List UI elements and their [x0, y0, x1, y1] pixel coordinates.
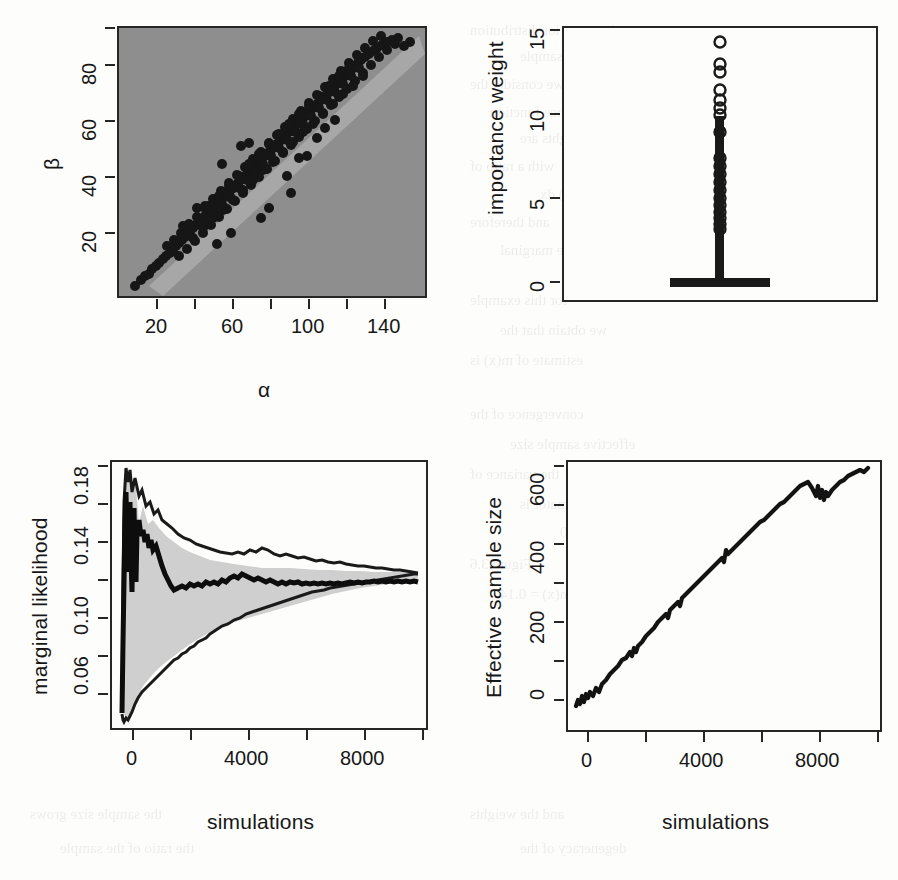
ytick-label: 0.10	[70, 596, 93, 635]
plot-area-effective-sample-size	[566, 460, 882, 732]
four-panel-figure: β 20 40 60 80	[0, 0, 898, 880]
axis-tick	[554, 699, 564, 701]
axis-tick	[156, 299, 158, 309]
axis-title-importance-weight: importance weight	[484, 41, 508, 215]
axis-tick	[819, 732, 821, 742]
axis-tick	[554, 504, 564, 506]
axis-tick	[105, 64, 115, 66]
axis-tick	[703, 732, 705, 742]
xtick-label: 140	[367, 315, 400, 338]
axis-tick	[270, 299, 272, 309]
panel-marginal-likelihood: marginal likelihood 0.06 0.10 0.14 0.18	[0, 440, 450, 880]
ytick-label: 40	[78, 175, 101, 197]
axis-tick	[645, 732, 647, 742]
axis-tick	[98, 693, 108, 695]
xtick-label: 8000	[795, 749, 840, 772]
axis-tick	[554, 543, 564, 545]
axis-tick	[105, 120, 115, 122]
confidence-band-fill	[122, 468, 418, 722]
axis-tick	[761, 732, 763, 742]
axis-tick	[550, 197, 560, 199]
axis-tick	[554, 621, 564, 623]
axis-tick	[98, 465, 108, 467]
ytick-label: 0	[526, 689, 549, 700]
axis-tick	[550, 113, 560, 115]
ytick-label: 0.06	[70, 656, 93, 695]
axis-tick	[98, 655, 108, 657]
ytick-label: 5	[526, 199, 549, 210]
axis-tick	[98, 579, 108, 581]
axis-tick	[105, 232, 115, 234]
xtick-label: 4000	[679, 749, 724, 772]
xtick-label: 0	[126, 747, 137, 770]
axis-tick	[554, 660, 564, 662]
scatter-points	[119, 28, 425, 296]
panel-alpha-beta-scatter: β 20 40 60 80	[0, 0, 450, 440]
axis-title-effective-sample-size: Effective sample size	[482, 497, 506, 698]
axis-tick	[422, 730, 424, 740]
axis-tick	[190, 730, 192, 740]
marginal-likelihood-band	[112, 462, 426, 728]
axis-tick	[554, 582, 564, 584]
ytick-label: 60	[78, 119, 101, 141]
axis-title-simulations-left: simulations	[207, 810, 314, 834]
ytick-label: 200	[526, 611, 549, 644]
axis-tick	[194, 299, 196, 309]
ytick-label: 10	[526, 110, 549, 132]
axis-tick	[306, 730, 308, 740]
ytick-label: 600	[526, 473, 549, 506]
axis-tick	[105, 27, 115, 29]
axis-tick	[554, 465, 564, 467]
axis-tick	[98, 503, 108, 505]
panel-effective-sample-size: Effective sample size 0 200 400 600 0 40…	[450, 440, 898, 880]
xtick-label: 4000	[224, 747, 269, 770]
ytick-label: 400	[526, 541, 549, 574]
axis-title-marginal-likelihood: marginal likelihood	[28, 517, 52, 695]
xtick-label: 8000	[340, 747, 385, 770]
axis-tick	[132, 730, 134, 740]
xtick-label: 20	[145, 315, 167, 338]
axis-tick	[384, 299, 386, 309]
axis-tick	[550, 29, 560, 31]
axis-title-beta: β	[40, 158, 64, 170]
axis-title-alpha: α	[258, 378, 270, 402]
ytick-label: 15	[526, 28, 549, 50]
axis-tick	[248, 730, 250, 740]
ess-trace	[576, 468, 868, 706]
plot-area-scatter	[117, 26, 427, 298]
panel-importance-weight-boxplot: importance weight 0 5 10 15	[450, 0, 898, 340]
ytick-label: 20	[78, 231, 101, 253]
xtick-label: 0	[581, 749, 592, 772]
ytick-label: 80	[78, 63, 101, 85]
axis-tick	[308, 299, 310, 309]
xtick-label: 100	[291, 315, 324, 338]
axis-tick	[98, 541, 108, 543]
ess-line	[568, 462, 880, 730]
axis-tick	[232, 299, 234, 309]
ytick-label: 0	[526, 281, 549, 292]
axis-title-simulations-right: simulations	[662, 810, 769, 834]
axis-tick	[346, 299, 348, 309]
xtick-label: 60	[221, 315, 243, 338]
ytick-label: 0.18	[70, 466, 93, 505]
axis-tick	[105, 176, 115, 178]
plot-area-boxplot	[562, 26, 878, 302]
boxplot-glyph	[564, 28, 876, 300]
axis-tick	[587, 732, 589, 742]
axis-tick	[98, 617, 108, 619]
ytick-label: 0.14	[70, 526, 93, 565]
plot-area-marginal-likelihood	[110, 460, 428, 730]
axis-tick	[877, 732, 879, 742]
axis-tick	[550, 281, 560, 283]
axis-tick	[364, 730, 366, 740]
